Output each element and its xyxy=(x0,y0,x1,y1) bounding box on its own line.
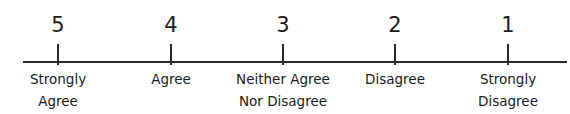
scale-tick xyxy=(282,44,284,65)
scale-tick xyxy=(170,44,172,65)
scale-tick xyxy=(57,44,59,65)
scale-tick xyxy=(394,44,396,65)
scale-label-line1: Strongly xyxy=(438,68,570,90)
scale-label-line2: Nor Disagree xyxy=(213,90,353,112)
scale-label: Strongly Disagree xyxy=(438,68,570,112)
scale-label-line2: Agree xyxy=(0,90,128,112)
scale-tick xyxy=(507,44,509,65)
scale-value: 1 xyxy=(438,12,570,38)
scale-label-line2: Disagree xyxy=(438,90,570,112)
scale-axis-line xyxy=(23,61,567,63)
